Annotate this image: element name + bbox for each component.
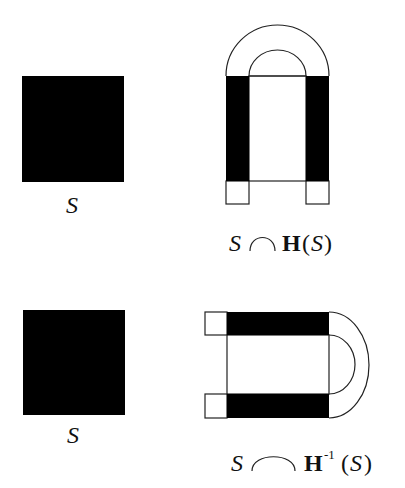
caption-open-paren: ( xyxy=(341,450,349,476)
intersection-bar-bottom xyxy=(227,394,329,418)
caption-map: H xyxy=(304,450,323,476)
intersection-bar-top xyxy=(227,312,329,335)
intersection-bar-right xyxy=(306,76,329,181)
intersection-icon xyxy=(252,457,295,471)
caption-superscript: -1 xyxy=(324,447,335,462)
caption-close-paren: ) xyxy=(324,230,332,256)
horseshoe-map-diagram: S S H ( S ) S S xyxy=(0,0,405,488)
caption-set: S xyxy=(231,450,243,476)
caption-map: H xyxy=(282,230,301,256)
caption-arg: S xyxy=(350,450,362,476)
caption-bottom: S H -1 ( S ) xyxy=(231,447,372,476)
set-s-square-bottom xyxy=(23,310,125,415)
caption-set: S xyxy=(229,230,241,256)
caption-arg: S xyxy=(311,230,323,256)
caption-top: S H ( S ) xyxy=(229,230,332,256)
caption-close-paren: ) xyxy=(364,450,372,476)
intersection-icon xyxy=(250,238,275,252)
set-s-square-top xyxy=(22,76,124,182)
caption-open-paren: ( xyxy=(302,230,310,256)
square-label-bottom: S xyxy=(67,422,79,448)
square-label-top: S xyxy=(66,192,78,218)
intersection-bar-left xyxy=(226,76,249,181)
